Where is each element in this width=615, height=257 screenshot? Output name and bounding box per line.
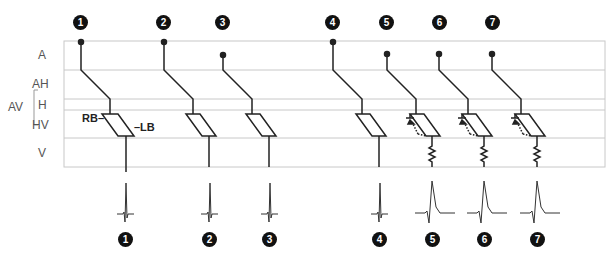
scenario-badge-bottom-1: 1 <box>118 232 133 247</box>
rb-label: RB– <box>82 112 104 124</box>
scenario-badge-top-2: 2 <box>156 15 171 30</box>
row-label-av: AV <box>8 100 23 114</box>
qrs-waveforms <box>117 181 560 223</box>
ladder-svg <box>0 0 615 257</box>
scenario-badge-top-3: 3 <box>215 15 230 30</box>
scenario-badge-bottom-5: 5 <box>425 232 440 247</box>
scenario-badge-bottom-4: 4 <box>372 232 387 247</box>
row-label-a: A <box>38 48 46 62</box>
scenario-badge-bottom-7: 7 <box>530 232 545 247</box>
lb-label: –LB <box>134 121 155 133</box>
scenario-badge-top-4: 4 <box>325 15 340 30</box>
scenario-badge-top-1: 1 <box>73 15 88 30</box>
row-label-hv: HV <box>32 118 49 132</box>
row-label-ah: AH <box>32 77 49 91</box>
scenario-badge-bottom-6: 6 <box>477 232 492 247</box>
conduction-paths <box>79 40 546 173</box>
row-label-v: V <box>38 146 46 160</box>
scenario-badge-top-6: 6 <box>432 15 447 30</box>
scenario-badge-top-7: 7 <box>485 15 500 30</box>
conduction-ladder-diagram: A AH H HV V AV RB– –LB 1 2 3 4 5 6 7 1 2… <box>0 0 615 257</box>
row-label-h: H <box>38 98 47 112</box>
scenario-badge-top-5: 5 <box>379 15 394 30</box>
ladder-grid <box>64 41 605 167</box>
scenario-badge-bottom-2: 2 <box>202 232 217 247</box>
scenario-badge-bottom-3: 3 <box>262 232 277 247</box>
